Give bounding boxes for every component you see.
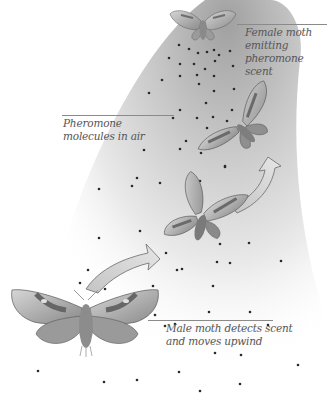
female-leader-line [237,24,327,25]
male-moth-label: Male moth detects scent and moves upwind [166,322,293,348]
male-label-line1: Male moth detects scent [166,322,293,335]
male-label-line2: and moves upwind [166,335,293,348]
diagram-canvas: Female moth emitting pheromone scent Phe… [0,0,333,399]
female-label-line2: emitting [245,39,333,52]
female-label-line1: Female moth [245,26,333,39]
male-leader-line [148,320,273,321]
molecules-label-line2: molecules in air [63,130,145,143]
female-moth-label: Female moth emitting pheromone scent [245,26,333,78]
molecules-leader-line [62,115,174,116]
molecules-label-line1: Pheromone [63,117,145,130]
molecules-label: Pheromone molecules in air [63,117,145,143]
female-label-line3: pheromone scent [245,52,333,78]
